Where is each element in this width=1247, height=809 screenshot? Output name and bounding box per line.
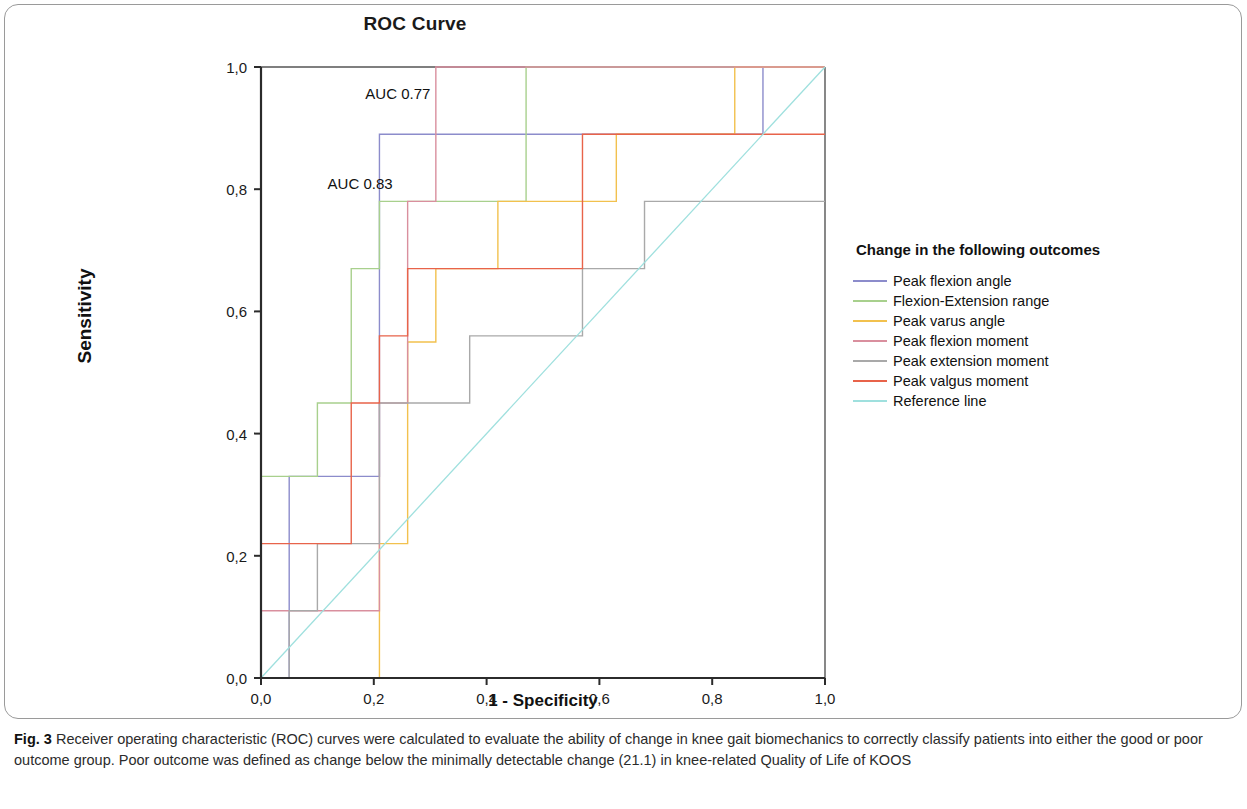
auc-annotation: AUC 0.83 bbox=[328, 175, 393, 192]
legend-item-label: Peak flexion angle bbox=[893, 273, 1012, 289]
roc-plot bbox=[5, 5, 845, 705]
figure-label: Fig. 3 bbox=[14, 731, 52, 747]
legend-color-swatch bbox=[853, 360, 887, 362]
legend-item-label: Flexion-Extension range bbox=[893, 293, 1049, 309]
legend-color-swatch bbox=[853, 340, 887, 342]
x-tick-label: 0,4 bbox=[476, 690, 497, 707]
series-line-reference-line bbox=[261, 67, 825, 678]
legend-color-swatch bbox=[853, 300, 887, 302]
legend-item-label: Reference line bbox=[893, 393, 987, 409]
legend-item-label: Peak extension moment bbox=[893, 353, 1049, 369]
series-line-peak-extension-moment bbox=[261, 201, 825, 678]
x-tick-label: 0,0 bbox=[251, 690, 272, 707]
legend-title: Change in the following outcomes bbox=[853, 241, 1103, 259]
legend-color-swatch bbox=[853, 320, 887, 322]
x-tick-label: 0,2 bbox=[363, 690, 384, 707]
legend-item-label: Peak varus angle bbox=[893, 313, 1005, 329]
legend-item[interactable]: Peak varus angle bbox=[853, 311, 1103, 331]
legend-color-swatch bbox=[853, 400, 887, 402]
auc-annotation: AUC 0.77 bbox=[365, 85, 430, 102]
figure-caption: Fig. 3 Receiver operating characteristic… bbox=[14, 729, 1229, 771]
legend-item[interactable]: Flexion-Extension range bbox=[853, 291, 1103, 311]
legend-item[interactable]: Peak flexion angle bbox=[853, 271, 1103, 291]
legend-item[interactable]: Peak extension moment bbox=[853, 351, 1103, 371]
legend-color-swatch bbox=[853, 380, 887, 382]
x-tick-label: 0,6 bbox=[589, 690, 610, 707]
legend-item[interactable]: Reference line bbox=[853, 391, 1103, 411]
figure-frame: ROC Curve Sensitivity 1 - Specificity 0,… bbox=[4, 4, 1242, 719]
y-tick-label: 0,8 bbox=[203, 181, 247, 198]
legend-item-label: Peak flexion moment bbox=[893, 333, 1028, 349]
figure-caption-text: Receiver operating characteristic (ROC) … bbox=[14, 731, 1203, 768]
y-tick-label: 0,4 bbox=[203, 425, 247, 442]
series-line-peak-valgus-moment bbox=[261, 134, 825, 678]
legend-rows: Peak flexion angleFlexion-Extension rang… bbox=[853, 271, 1103, 411]
x-tick-label: 0,8 bbox=[702, 690, 723, 707]
y-tick-label: 1,0 bbox=[203, 59, 247, 76]
legend-item[interactable]: Peak flexion moment bbox=[853, 331, 1103, 351]
chart-legend: Change in the following outcomes Peak fl… bbox=[853, 241, 1103, 411]
legend-color-swatch bbox=[853, 280, 887, 282]
y-tick-label: 0,2 bbox=[203, 547, 247, 564]
x-tick-label: 1,0 bbox=[815, 690, 836, 707]
y-tick-label: 0,6 bbox=[203, 303, 247, 320]
legend-item[interactable]: Peak valgus moment bbox=[853, 371, 1103, 391]
legend-item-label: Peak valgus moment bbox=[893, 373, 1028, 389]
y-tick-label: 0,0 bbox=[203, 670, 247, 687]
